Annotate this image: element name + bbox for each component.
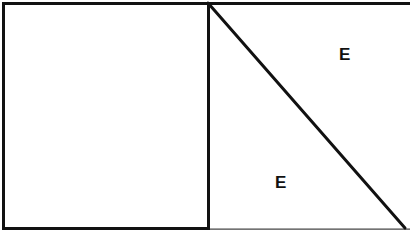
diagonal-line (208, 3, 405, 228)
diagram-canvas (0, 0, 410, 235)
geometry-diagram: E E (0, 0, 410, 235)
region-label-lower: E (275, 174, 286, 191)
region-label-upper: E (339, 46, 350, 63)
